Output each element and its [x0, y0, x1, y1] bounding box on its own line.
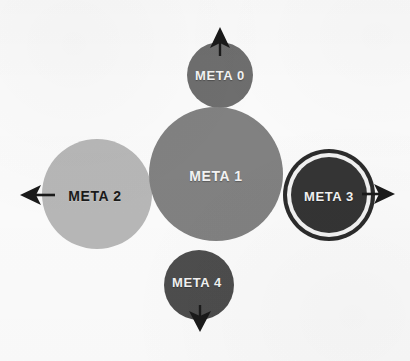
node-meta-1[interactable]: [149, 107, 283, 241]
node-layer: [42, 42, 375, 320]
node-meta-2[interactable]: [42, 139, 152, 249]
diagram-svg: [0, 0, 410, 361]
diagram-canvas: META 0 META 1 META 2 META 3 META 4: [0, 0, 410, 361]
node-meta-3[interactable]: [291, 157, 367, 233]
